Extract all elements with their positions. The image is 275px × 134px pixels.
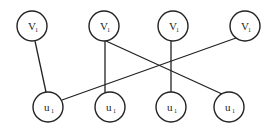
- edges-group: [35, 38, 236, 100]
- node-u4: u1: [214, 92, 244, 122]
- node-u2: u1: [95, 92, 125, 122]
- node-label-subscript: 1: [107, 27, 110, 33]
- node-label-subscript: 1: [176, 27, 179, 33]
- node-label-subscript: 1: [51, 108, 54, 114]
- node-label-subscript: 1: [232, 108, 235, 114]
- node-v3: V1: [158, 11, 188, 41]
- node-label-subscript: 1: [113, 108, 116, 114]
- nodes-group: V1V1V1V1u1u1u1u1: [17, 11, 260, 122]
- node-label: u: [167, 101, 173, 113]
- bipartite-graph-diagram: V1V1V1V1u1u1u1u1: [0, 0, 275, 134]
- node-label: u: [44, 101, 50, 113]
- node-v2: V1: [89, 11, 119, 41]
- node-label-subscript: 1: [35, 27, 38, 33]
- edge-v4-u1: [62, 38, 236, 100]
- node-v1: V1: [17, 11, 47, 41]
- node-label: u: [106, 101, 112, 113]
- node-label: u: [225, 101, 231, 113]
- node-u1: u1: [33, 92, 63, 122]
- edge-v1-u1: [35, 41, 46, 92]
- node-label-subscript: 1: [174, 108, 177, 114]
- node-u3: u1: [156, 92, 186, 122]
- node-label-subscript: 1: [248, 27, 251, 33]
- node-v4: V1: [230, 11, 260, 41]
